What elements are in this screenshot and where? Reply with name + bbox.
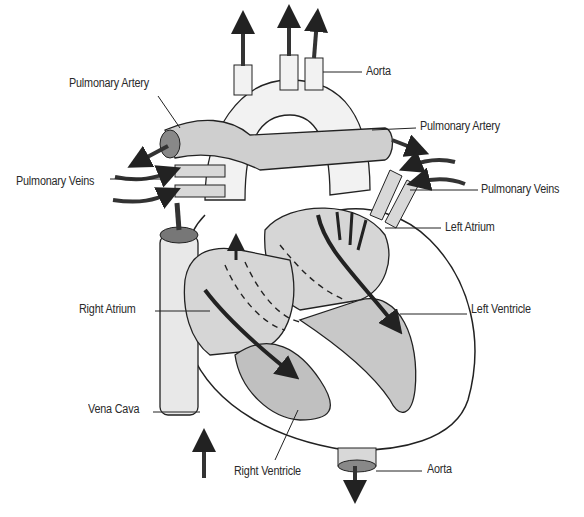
aorta-arch	[205, 16, 370, 200]
label-right-atrium: Right Atrium	[79, 302, 136, 316]
label-right-ventricle: Right Ventricle	[234, 464, 301, 478]
label-left-atrium: Left Atrium	[445, 220, 495, 234]
label-pulmonary-veins-left: Pulmonary Veins	[16, 174, 94, 188]
label-pulmonary-artery-right: Pulmonary Artery	[420, 119, 500, 133]
label-vena-cava: Vena Cava	[88, 402, 139, 416]
label-pulmonary-veins-right: Pulmonary Veins	[481, 182, 559, 196]
aorta-bottom-vessel	[338, 448, 376, 492]
label-aorta-bottom: Aorta	[427, 462, 452, 476]
label-left-ventricle: Left Ventricle	[471, 302, 531, 316]
label-pulmonary-artery-left: Pulmonary Artery	[69, 76, 149, 90]
label-aorta-top: Aorta	[366, 64, 391, 78]
heart-diagram: Pulmonary Artery Aorta Pulmonary Artery …	[0, 0, 584, 517]
